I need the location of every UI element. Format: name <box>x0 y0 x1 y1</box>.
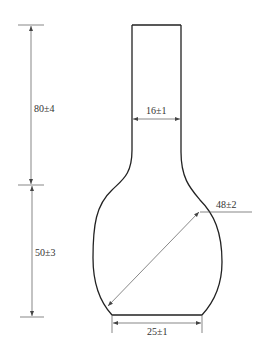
neck-width-label: 16±1 <box>146 105 167 116</box>
flask-drawing: 80±4 50±3 16±1 48±2 25±1 <box>0 0 264 359</box>
dimension-base-width: 25±1 <box>112 316 202 337</box>
bulb-diameter-label: 48±2 <box>216 199 237 210</box>
dimension-neck-height: 80±4 <box>18 25 55 185</box>
base-width-label: 25±1 <box>147 326 168 337</box>
flask-outline <box>93 25 222 315</box>
dimension-bulb-height: 50±3 <box>20 186 56 317</box>
dimension-neck-width: 16±1 <box>133 105 180 119</box>
neck-height-label: 80±4 <box>34 103 55 114</box>
dimension-bulb-diameter: 48±2 <box>108 199 252 306</box>
bulb-height-label: 50±3 <box>35 247 56 258</box>
